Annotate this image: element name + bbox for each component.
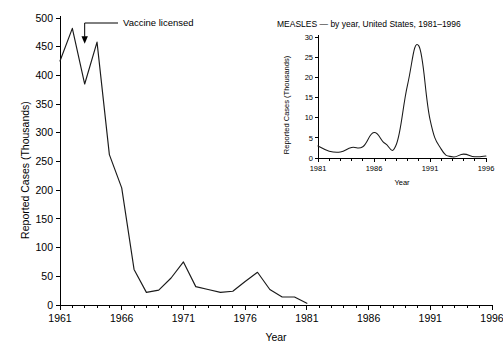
main-y-tick-label: 0 <box>47 299 53 311</box>
main-y-tick-label: 50 <box>41 270 53 282</box>
inset-y-tick-label: 0 <box>309 154 313 163</box>
inset-y-tick-label: 10 <box>305 113 313 122</box>
inset-y-tick-label: 25 <box>305 53 313 62</box>
main-x-tick-label: 1996 <box>480 312 503 324</box>
main-x-tick-label: 1981 <box>295 312 319 324</box>
inset-y-axis-title: Reported Cases (Thousands) <box>282 55 291 154</box>
main-y-tick-label: 500 <box>35 12 53 24</box>
inset-title: MEASLES — by year, United States, 1981–1… <box>277 19 461 29</box>
main-x-tick-label: 1976 <box>233 312 257 324</box>
inset-x-tick-label: 1981 <box>310 164 327 173</box>
inset-x-axis-title: Year <box>394 178 410 187</box>
main-y-tick-label: 300 <box>35 126 53 138</box>
inset-y-tick-label: 20 <box>305 73 313 82</box>
main-x-tick-label: 1971 <box>172 312 196 324</box>
main-y-tick-label: 450 <box>35 40 53 52</box>
main-y-tick-label: 150 <box>35 213 53 225</box>
inset-y-tick-label: 15 <box>305 93 313 102</box>
main-x-axis-title: Year <box>265 331 287 343</box>
inset-x-tick-label: 1991 <box>422 164 439 173</box>
main-x-tick-label: 1991 <box>419 312 443 324</box>
main-x-tick-label: 1966 <box>110 312 134 324</box>
figure-background <box>0 0 503 346</box>
inset-x-tick-label: 1996 <box>478 164 495 173</box>
measles-figure: Reported Cases (Thousands) 0501001502002… <box>0 0 503 346</box>
annotation-label: Vaccine licensed <box>123 17 194 28</box>
main-x-tick-label: 1986 <box>357 312 381 324</box>
inset-x-tick-label: 1986 <box>366 164 383 173</box>
main-y-tick-label: 250 <box>35 155 53 167</box>
main-y-tick-label: 350 <box>35 98 53 110</box>
inset-y-tick-label: 30 <box>305 33 313 42</box>
main-y-tick-label: 400 <box>35 69 53 81</box>
inset-y-tick-label: 5 <box>309 134 313 143</box>
main-x-tick-label: 1961 <box>48 312 72 324</box>
main-y-axis-title: Reported Cases (Thousands) <box>19 101 31 239</box>
main-y-tick-label: 100 <box>35 241 53 253</box>
main-y-tick-label: 200 <box>35 184 53 196</box>
